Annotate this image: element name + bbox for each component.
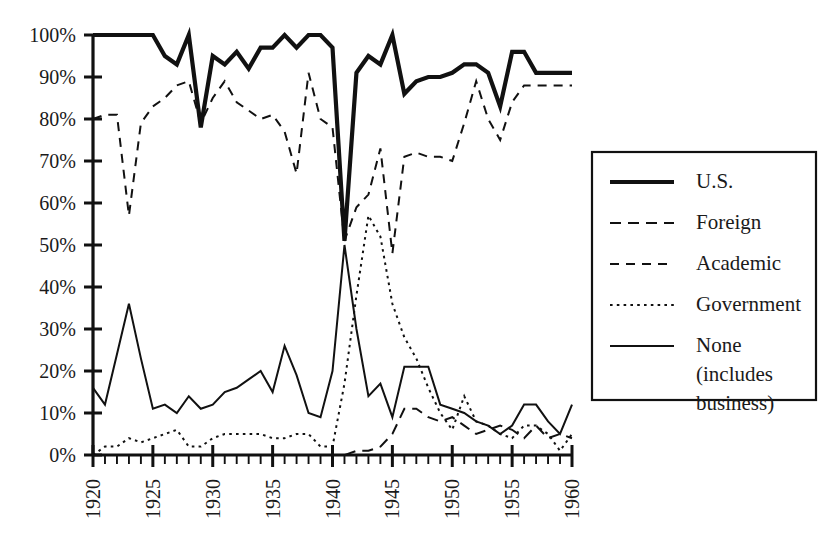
legend-label-u-s-: U.S.	[696, 169, 733, 193]
line-chart: 0%10%20%30%40%50%60%70%80%90%100% 192019…	[0, 0, 824, 550]
y-tick-label: 20%	[39, 360, 76, 382]
x-axis: 192019251930193519401945195019551960	[82, 445, 583, 519]
legend-label-foreign: Foreign	[696, 210, 762, 234]
x-tick-label: 1955	[501, 479, 523, 519]
legend-label-none-line2: (includes	[696, 362, 773, 386]
chart-figure: 0%10%20%30%40%50%60%70%80%90%100% 192019…	[0, 0, 824, 550]
y-tick-label: 40%	[39, 276, 76, 298]
x-tick-label: 1950	[441, 479, 463, 519]
y-tick-label: 60%	[39, 192, 76, 214]
x-tick-label: 1930	[202, 479, 224, 519]
x-tick-label: 1920	[82, 479, 104, 519]
legend-label-government: Government	[696, 292, 801, 316]
legend-label-none: None	[696, 333, 742, 357]
y-tick-label: 100%	[29, 24, 76, 46]
y-tick-label: 0%	[49, 444, 76, 466]
x-tick-label: 1945	[381, 479, 403, 519]
y-tick-label: 80%	[39, 108, 76, 130]
x-tick-label: 1960	[561, 479, 583, 519]
y-tick-label: 50%	[39, 234, 76, 256]
x-tick-label: 1925	[142, 479, 164, 519]
y-tick-label: 90%	[39, 66, 76, 88]
chart-legend: U.S.ForeignAcademicGovernmentNone(includ…	[592, 152, 816, 415]
legend-label-academic: Academic	[696, 251, 781, 275]
x-tick-label: 1935	[262, 479, 284, 519]
y-tick-label: 70%	[39, 150, 76, 172]
y-tick-label: 10%	[39, 402, 76, 424]
x-tick-label: 1940	[322, 479, 344, 519]
y-tick-label: 30%	[39, 318, 76, 340]
legend-label-none-line3: business)	[696, 391, 774, 415]
